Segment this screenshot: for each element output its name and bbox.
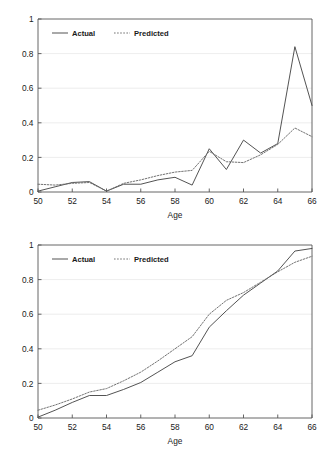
gridlines-bottom [38,280,312,384]
legend-bottom: ActualPredicted [52,255,169,264]
ticks-top [38,19,312,192]
chart-svg-top: 00.20.40.60.81 505254565860626466 Actual… [0,0,332,226]
legend-top: ActualPredicted [52,29,169,38]
ytick-label: 0.4 [22,344,34,354]
ytick-label: 0.8 [22,49,34,59]
legend-label-actual: Actual [72,255,95,264]
series-line-actual [38,248,312,417]
xtick-label: 60 [205,196,215,206]
legend-label-predicted: Predicted [134,29,169,38]
series-line-actual [38,47,312,191]
xtick-label: 56 [136,196,146,206]
chart-svg-bottom: 00.20.40.60.81 505254565860626466 Actual… [0,226,332,452]
xtick-label: 64 [273,196,283,206]
xtick-label: 58 [170,196,180,206]
ticks-bottom [38,245,312,418]
series-lines-bottom [38,248,312,417]
ytick-label: 0.8 [22,275,34,285]
plot-frame-top [38,19,312,192]
xaxis-title-bottom: Age [168,436,183,446]
xtick-label: 54 [102,422,112,432]
xtick-label: 64 [273,422,283,432]
ytick-label: 0.2 [22,153,34,163]
ytick-label: 0.2 [22,379,34,389]
legend-label-predicted: Predicted [134,255,169,264]
xtick-label: 56 [136,422,146,432]
ytick-label: 0.6 [22,83,34,93]
chart-panel-bottom: 00.20.40.60.81 505254565860626466 Actual… [0,226,332,452]
xtick-label: 62 [239,196,249,206]
ytick-label: 0.6 [22,309,34,319]
figure-two-line-charts: 00.20.40.60.81 505254565860626466 Actual… [0,0,332,452]
ytick-label: 0.4 [22,118,34,128]
legend-label-actual: Actual [72,29,95,38]
gridlines-top [38,54,312,158]
xtick-label: 66 [307,196,317,206]
series-lines-top [38,47,312,191]
plot-frame-bottom [38,245,312,418]
xtick-label: 60 [205,422,215,432]
ytick-label: 1 [29,14,34,24]
ytick-label: 1 [29,240,34,250]
xtick-label: 50 [33,196,43,206]
xtick-label: 54 [102,196,112,206]
series-line-predicted [38,128,312,191]
xaxis-title: Age [168,436,183,446]
xtick-label: 66 [307,422,317,432]
xtick-label: 58 [170,422,180,432]
xtick-label: 50 [33,422,43,432]
xtick-label: 52 [68,196,78,206]
ytick-labels-bottom: 00.20.40.60.81 [22,240,34,423]
chart-panel-top: 00.20.40.60.81 505254565860626466 Actual… [0,0,332,226]
xtick-labels-bottom: 505254565860626466 [33,422,317,432]
xtick-label: 62 [239,422,249,432]
xtick-label: 52 [68,422,78,432]
xtick-labels-top: 505254565860626466 [33,196,317,206]
ytick-labels-top: 00.20.40.60.81 [22,14,34,197]
xaxis-title-top: Age [168,210,183,220]
xaxis-title: Age [168,210,183,220]
